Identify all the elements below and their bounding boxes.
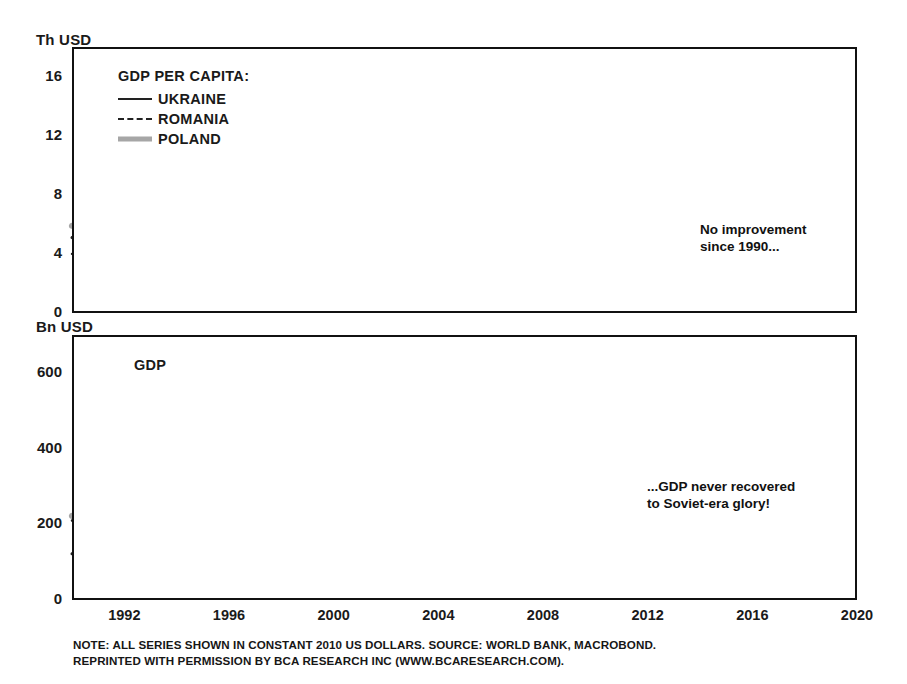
plot-frame-bottom <box>72 335 857 600</box>
y-tick-label: 8 <box>0 185 62 202</box>
legend-key-poland-icon <box>118 132 152 146</box>
x-tick-label: 2004 <box>398 607 478 623</box>
gdp-panel <box>72 335 857 600</box>
footnote-line1: NOTE: ALL SERIES SHOWN IN CONSTANT 2010 … <box>73 637 656 653</box>
y-tick-label: 400 <box>0 439 62 456</box>
x-tick-label: 2000 <box>294 607 374 623</box>
x-tick-label: 2016 <box>712 607 792 623</box>
y-tick-label: 12 <box>0 126 62 143</box>
callout-bottom-line2: to Soviet-era glory! <box>647 495 795 512</box>
x-tick-label: 2020 <box>817 607 897 623</box>
legend-key-ukraine-icon <box>118 92 152 106</box>
legend-top: GDP PER CAPITA: UKRAINE ROMANIA POLAND <box>118 68 249 149</box>
top-panel-unit-label: Th USD <box>36 31 91 48</box>
legend-label-ukraine: UKRAINE <box>158 91 226 107</box>
x-tick-label: 1996 <box>189 607 269 623</box>
chart-root: Th USD 1612840 GDP PER CAPITA: UKRAINE R… <box>0 0 907 684</box>
callout-top-line2: since 1990... <box>700 238 807 255</box>
gdp-panel-title: GDP <box>134 357 166 373</box>
y-tick-label: 0 <box>0 590 62 607</box>
callout-bottom-line1: ...GDP never recovered <box>647 478 795 495</box>
legend-title: GDP PER CAPITA: <box>118 68 249 84</box>
callout-bottom: ...GDP never recovered to Soviet-era glo… <box>647 478 795 513</box>
legend-key-romania-icon <box>118 112 152 126</box>
y-tick-label: 600 <box>0 363 62 380</box>
y-tick-label: 200 <box>0 514 62 531</box>
bottom-panel-unit-label: Bn USD <box>36 318 93 335</box>
footnote: NOTE: ALL SERIES SHOWN IN CONSTANT 2010 … <box>73 637 656 670</box>
x-tick-label: 1992 <box>84 607 164 623</box>
legend-item-ukraine: UKRAINE <box>118 89 249 109</box>
legend-item-romania: ROMANIA <box>118 109 249 129</box>
footnote-line2: REPRINTED WITH PERMISSION BY BCA RESEARC… <box>73 653 656 669</box>
callout-top-line1: No improvement <box>700 221 807 238</box>
y-tick-label: 16 <box>0 67 62 84</box>
legend-item-poland: POLAND <box>118 129 249 149</box>
y-tick-label: 4 <box>0 244 62 261</box>
legend-label-romania: ROMANIA <box>158 111 229 127</box>
x-tick-label: 2012 <box>608 607 688 623</box>
legend-label-poland: POLAND <box>158 131 221 147</box>
callout-top: No improvement since 1990... <box>700 221 807 256</box>
x-tick-label: 2008 <box>503 607 583 623</box>
